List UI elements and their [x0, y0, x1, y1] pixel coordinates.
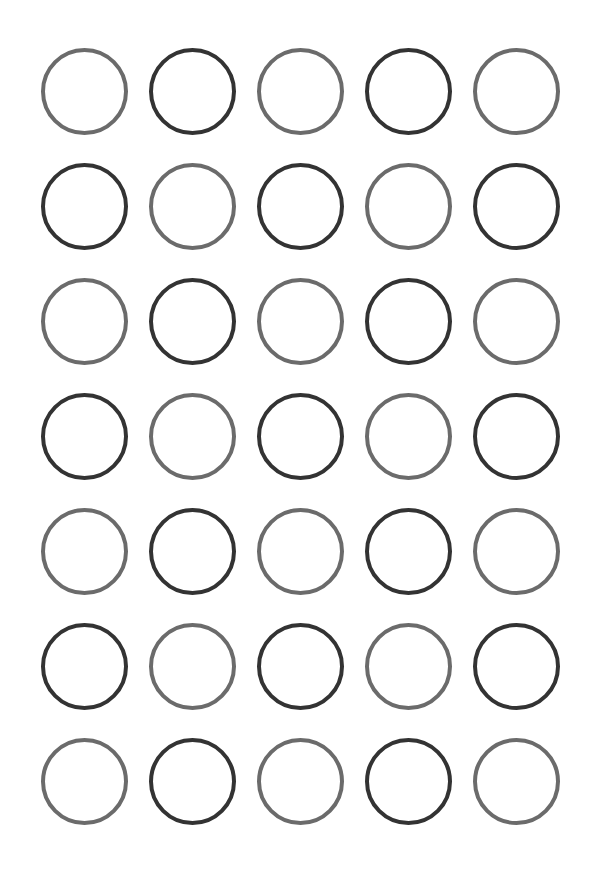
circle-r6c2-icon [149, 623, 236, 710]
circle-cell [246, 609, 354, 724]
circle-cell [462, 609, 570, 724]
circle-cell [462, 379, 570, 494]
circle-r1c5-icon [473, 48, 560, 135]
circle-r5c3-icon [257, 508, 344, 595]
circle-r2c3-icon [257, 163, 344, 250]
circle-cell [30, 34, 138, 149]
circle-r6c5-icon [473, 623, 560, 710]
circle-cell [138, 609, 246, 724]
circle-r5c5-icon [473, 508, 560, 595]
circle-cell [246, 149, 354, 264]
circle-cell [138, 264, 246, 379]
circle-cell [138, 34, 246, 149]
circle-r1c1-icon [41, 48, 128, 135]
circle-cell [30, 379, 138, 494]
circle-cell [246, 724, 354, 839]
circle-cell [354, 724, 462, 839]
circle-r3c1-icon [41, 278, 128, 365]
circle-r4c4-icon [365, 393, 452, 480]
circle-r4c5-icon [473, 393, 560, 480]
circle-cell [354, 264, 462, 379]
circle-cell [354, 494, 462, 609]
circle-r5c1-icon [41, 508, 128, 595]
circle-r6c4-icon [365, 623, 452, 710]
circle-r4c3-icon [257, 393, 344, 480]
circle-r4c2-icon [149, 393, 236, 480]
circle-cell [30, 149, 138, 264]
circle-r3c5-icon [473, 278, 560, 365]
circle-r7c4-icon [365, 738, 452, 825]
circle-cell [246, 379, 354, 494]
circle-cell [246, 34, 354, 149]
circle-cell [462, 494, 570, 609]
circle-cell [462, 724, 570, 839]
circle-cell [354, 149, 462, 264]
circle-r1c2-icon [149, 48, 236, 135]
circle-r7c2-icon [149, 738, 236, 825]
circle-cell [462, 34, 570, 149]
circle-cell [354, 609, 462, 724]
circle-r1c3-icon [257, 48, 344, 135]
circle-r5c2-icon [149, 508, 236, 595]
circle-cell [354, 34, 462, 149]
page-canvas [0, 0, 613, 878]
circle-cell [354, 379, 462, 494]
circle-cell [246, 494, 354, 609]
circle-grid [0, 0, 613, 878]
circle-cell [138, 494, 246, 609]
circle-cell [30, 724, 138, 839]
circle-r3c4-icon [365, 278, 452, 365]
circle-r2c4-icon [365, 163, 452, 250]
circle-r7c3-icon [257, 738, 344, 825]
circle-cell [30, 264, 138, 379]
circle-r3c2-icon [149, 278, 236, 365]
circle-r2c5-icon [473, 163, 560, 250]
circle-cell [30, 494, 138, 609]
circle-cell [138, 379, 246, 494]
circle-r1c4-icon [365, 48, 452, 135]
circle-r2c2-icon [149, 163, 236, 250]
circle-r6c3-icon [257, 623, 344, 710]
circle-cell [462, 149, 570, 264]
circle-r5c4-icon [365, 508, 452, 595]
circle-r4c1-icon [41, 393, 128, 480]
circle-r6c1-icon [41, 623, 128, 710]
circle-cell [462, 264, 570, 379]
circle-cell [138, 724, 246, 839]
circle-r3c3-icon [257, 278, 344, 365]
circle-cell [246, 264, 354, 379]
circle-r7c5-icon [473, 738, 560, 825]
circle-r7c1-icon [41, 738, 128, 825]
circle-cell [138, 149, 246, 264]
circle-cell [30, 609, 138, 724]
circle-r2c1-icon [41, 163, 128, 250]
